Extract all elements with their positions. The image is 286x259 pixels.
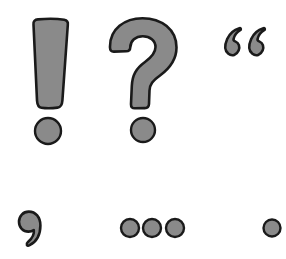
- exclamation-stem: [33, 19, 67, 108]
- question-dot: [131, 118, 155, 142]
- exclamation-dot: [35, 118, 61, 144]
- punctuation-illustration: [0, 0, 286, 259]
- ellipsis-dot-1: [121, 219, 139, 237]
- period-glyph: [264, 220, 281, 237]
- ellipsis-dot-2: [143, 219, 161, 237]
- illustration-canvas: Exclamation mark ! Question mark ? Openi…: [0, 0, 286, 259]
- ellipsis-glyph: [121, 219, 184, 237]
- ellipsis-dot-3: [166, 219, 184, 237]
- period-dot: [264, 220, 281, 237]
